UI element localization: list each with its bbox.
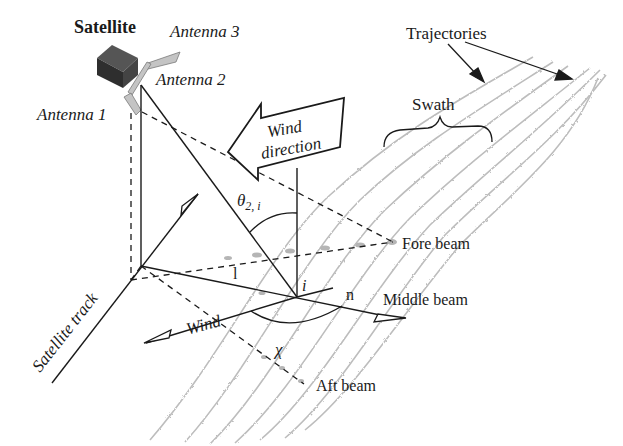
satellite-track-line [52, 194, 198, 383]
unit-l-label: l [233, 265, 238, 282]
satellite-track-arrowhead [181, 194, 198, 215]
satellite-label: Satellite [74, 17, 136, 37]
trajectories-label: Trajectories [406, 24, 487, 43]
point-i-label: i [302, 277, 306, 294]
fore-beam-label: Fore beam [402, 235, 471, 252]
antenna-2-label: Antenna 2 [155, 70, 226, 89]
theta-arc [250, 213, 297, 232]
antenna-3-label: Antenna 3 [169, 22, 239, 41]
aft-beam-label: Aft beam [316, 377, 377, 394]
ground-connector [131, 266, 141, 280]
trajectory-lines [150, 57, 606, 444]
wind-label: Wind [184, 311, 223, 339]
aft-beam-ground [141, 266, 304, 384]
chi-arc [251, 306, 342, 323]
middle-beam-label: Middle beam [383, 291, 468, 308]
diagram-canvas: Satellite Antenna 3 Antenna 2 Antenna 1 … [0, 0, 623, 446]
wind-arrowhead [144, 330, 171, 343]
normal-n-label: n [346, 286, 354, 303]
swath-brace [384, 117, 492, 147]
antenna-1-panel [124, 93, 141, 115]
antenna-1-label: Antenna 1 [36, 105, 106, 124]
swath-label: Swath [412, 95, 455, 114]
diagram-svg: Satellite Antenna 3 Antenna 2 Antenna 1 … [0, 0, 623, 446]
fore-beam-ground [131, 242, 393, 280]
chi-label: χ [273, 340, 283, 359]
theta-label: θ2, i [237, 191, 261, 213]
satellite-icon [97, 45, 138, 88]
